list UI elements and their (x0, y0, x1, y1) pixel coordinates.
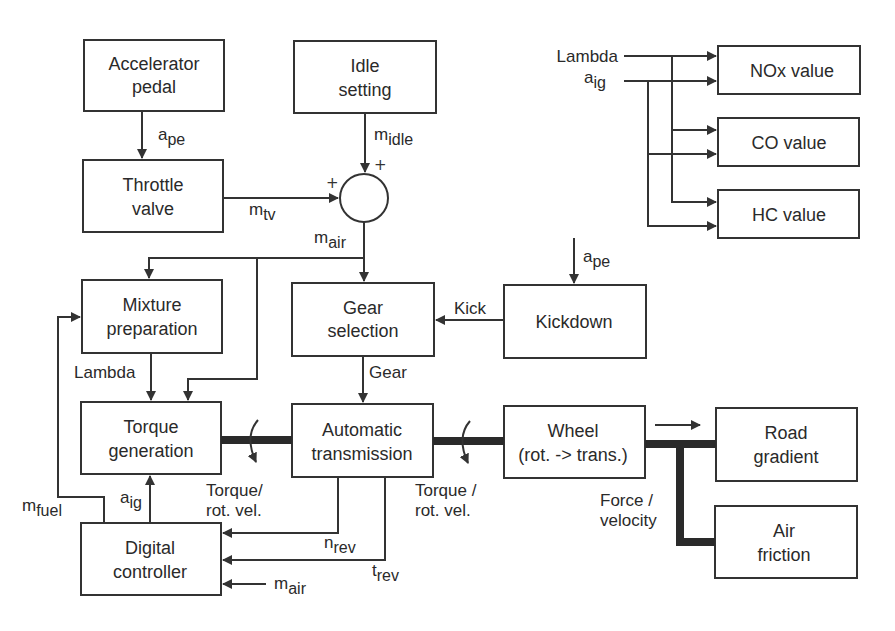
label-gear: Gear (369, 363, 407, 382)
block-torque-generation-label-1: Torque (123, 417, 178, 437)
block-torque-generation-label-2: generation (108, 441, 193, 461)
block-road-gradient-label-1: Road (764, 423, 807, 443)
block-nox-value-label: NOx value (750, 61, 834, 81)
block-mixture-preparation: Mixture preparation (82, 280, 222, 353)
plus-sign-top: + (374, 156, 387, 174)
block-mixture-preparation-label-1: Mixture (122, 295, 181, 315)
block-kickdown: Kickdown (504, 285, 646, 358)
label-t-rev: trev (372, 561, 399, 584)
label-torque-rot-vel-1b: rot. vel. (206, 501, 262, 520)
block-hc-value-label: HC value (752, 205, 826, 225)
wire-lambda-hc (672, 130, 716, 202)
block-digital-controller: Digital controller (81, 523, 221, 595)
label-lambda-in: Lambda (557, 47, 619, 66)
block-idle-setting: Idle setting (294, 41, 436, 113)
block-throttle-valve-label-2: valve (132, 199, 174, 219)
label-torque-rot-vel-1a: Torque/ (206, 481, 263, 500)
label-kick: Kick (454, 299, 487, 318)
block-kickdown-label: Kickdown (535, 312, 612, 332)
wire-lambda-co (672, 56, 716, 130)
block-gear-selection-label-1: Gear (343, 298, 383, 318)
block-air-friction: Air friction (715, 506, 857, 578)
block-accelerator-pedal-label-1: Accelerator (108, 54, 199, 74)
wire-a-ig-hc (648, 154, 716, 226)
label-a-pe-2: ape (583, 247, 610, 270)
block-throttle-valve: Throttle valve (83, 160, 223, 232)
block-accelerator-pedal: Accelerator pedal (84, 40, 224, 111)
vehicle-powertrain-block-diagram: Accelerator pedal Idle setting Throttle … (0, 0, 895, 631)
label-m-air-1: mair (314, 228, 347, 251)
block-wheel-label-1: Wheel (547, 421, 598, 441)
label-force-velocity-b: velocity (600, 511, 657, 530)
summing-junction: + + (326, 156, 388, 222)
bus-force-air (680, 444, 715, 542)
block-mixture-preparation-label-2: preparation (106, 319, 197, 339)
block-automatic-transmission-label-1: Automatic (322, 420, 402, 440)
block-automatic-transmission: Automatic transmission (292, 404, 433, 477)
block-gear-selection-label-2: selection (327, 321, 398, 341)
block-digital-controller-label-1: Digital (125, 538, 175, 558)
label-a-pe-1: ape (158, 125, 185, 148)
block-gear-selection: Gear selection (292, 283, 434, 356)
plus-sign-left: + (326, 174, 339, 192)
label-m-tv: mtv (249, 200, 276, 223)
block-wheel: Wheel (rot. -> trans.) (504, 406, 645, 478)
label-m-fuel: mfuel (22, 496, 62, 519)
block-digital-controller-label-2: controller (113, 562, 187, 582)
label-m-air-2: mair (274, 574, 307, 597)
block-air-friction-label-1: Air (773, 521, 795, 541)
block-co-value: CO value (718, 118, 859, 166)
label-torque-rot-vel-2b: rot. vel. (415, 501, 471, 520)
block-air-friction-label-2: friction (757, 545, 810, 565)
block-accelerator-pedal-label-2: pedal (132, 77, 176, 97)
block-road-gradient-label-2: gradient (753, 447, 818, 467)
label-n-rev: nrev (324, 533, 356, 556)
block-idle-setting-label-1: Idle (350, 56, 379, 76)
wire-a-ig-co (648, 81, 716, 154)
label-m-idle: midle (374, 125, 413, 148)
label-force-velocity-a: Force / (600, 491, 653, 510)
block-nox-value: NOx value (718, 46, 860, 94)
label-lambda-mix: Lambda (74, 363, 136, 382)
block-automatic-transmission-label-2: transmission (311, 444, 412, 464)
label-a-ig-ctrl: aig (120, 488, 142, 511)
block-throttle-valve-label-1: Throttle (122, 175, 183, 195)
block-torque-generation: Torque generation (81, 402, 221, 474)
block-co-value-label: CO value (751, 133, 826, 153)
label-torque-rot-vel-2a: Torque / (415, 481, 477, 500)
block-road-gradient: Road gradient (716, 408, 857, 481)
block-idle-setting-label-2: setting (338, 80, 391, 100)
label-a-ig-in: aig (584, 68, 606, 91)
block-hc-value: HC value (718, 190, 859, 238)
block-wheel-label-2: (rot. -> trans.) (518, 445, 628, 465)
summing-junction-circle-icon (340, 174, 388, 222)
